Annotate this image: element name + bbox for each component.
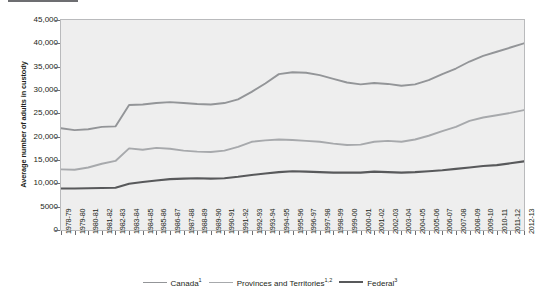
x-tick-label: 2011-12 [513,209,522,234]
y-tick-label: 40,000 [8,39,58,47]
x-tick-label: 1982-83 [118,209,127,234]
x-tick-label: 1981-82 [105,209,114,234]
x-tick-mark [510,231,511,235]
x-tick-label: 1980-81 [91,209,100,234]
x-tick-mark [361,231,362,235]
x-tick-mark [429,231,430,235]
legend-item[interactable]: Canada1 [143,277,202,288]
x-tick-mark [197,231,198,235]
x-tick-label: 1979-80 [78,209,87,234]
x-tick-label: 2004-05 [418,209,427,234]
x-tick-mark [306,231,307,235]
x-tick-mark [102,231,103,235]
x-tick-label: 1978-79 [64,209,73,234]
y-tick-label: 25,000 [8,109,58,117]
legend-label: Canada1 [171,277,202,288]
title-rule [8,0,78,2]
x-tick-label: 1996-97 [309,209,318,234]
chart-title-strip: Average number of adults in custody [0,0,540,7]
legend-item[interactable]: Provinces and Territories1,2 [209,277,333,288]
x-tick-label: 2009-10 [486,209,495,234]
legend-footnote-marker: 1,2 [325,277,333,283]
plot-area [60,19,525,231]
x-tick-mark [401,231,402,235]
y-tick-label: 5000 [8,203,58,211]
x-tick-label: 1987-88 [187,209,196,234]
x-tick-label: 2003-04 [404,209,413,234]
x-tick-mark [75,231,76,235]
x-tick-mark [143,231,144,235]
x-tick-mark [224,231,225,235]
y-tick-label: 35,000 [8,63,58,71]
x-tick-mark [388,231,389,235]
x-tick-mark [524,231,525,235]
x-tick-mark [88,231,89,235]
x-tick-label: 1990-91 [227,209,236,234]
line-series [61,110,524,170]
legend-item[interactable]: Federal3 [339,277,397,288]
y-tick-label: 45,000 [8,16,58,24]
x-tick-label: 1999-00 [350,209,359,234]
x-tick-mark [320,231,321,235]
x-tick-label: 2010-11 [500,209,509,234]
x-tick-mark [115,231,116,235]
legend-swatch [209,282,233,283]
y-axis-title: Average number of adults in custody [19,30,28,220]
y-tick-label: 20,000 [8,133,58,141]
legend-footnote-marker: 3 [394,277,397,283]
x-tick-mark [61,231,62,235]
x-tick-mark [415,231,416,235]
legend-swatch [143,282,167,283]
y-tick-label: 30,000 [8,86,58,94]
x-tick-label: 2008-09 [473,209,482,234]
x-tick-mark [456,231,457,235]
x-tick-mark [333,231,334,235]
legend-label: Federal3 [367,277,397,288]
x-tick-mark [156,231,157,235]
line-series-group [61,20,524,230]
y-tick-label: 0 [8,226,58,234]
x-tick-mark [470,231,471,235]
x-tick-label: 1995-96 [296,209,305,234]
x-tick-mark [252,231,253,235]
x-tick-label: 1997-98 [323,209,332,234]
x-tick-mark [170,231,171,235]
legend-label: Provinces and Territories1,2 [237,277,333,288]
x-tick-mark [211,231,212,235]
x-tick-mark [442,231,443,235]
x-tick-label: 1985-86 [159,209,168,234]
x-tick-mark [483,231,484,235]
x-tick-mark [293,231,294,235]
x-tick-label: 1993-94 [268,209,277,234]
x-tick-label: 1984-85 [146,209,155,234]
chart-legend: Canada1Provinces and Territories1,2Feder… [0,276,540,288]
legend-swatch [339,281,363,283]
x-tick-mark [265,231,266,235]
x-tick-mark [374,231,375,235]
x-tick-label: 1992-93 [255,209,264,234]
y-tick-label: 10,000 [8,179,58,187]
x-tick-label: 2006-07 [445,209,454,234]
x-tick-label: 2001-02 [377,209,386,234]
x-tick-label: 2000-01 [364,209,373,234]
x-tick-mark [279,231,280,235]
line-series [61,161,524,188]
legend-footnote-marker: 1 [199,277,202,283]
x-tick-label: 1991-92 [241,209,250,234]
x-tick-label: 2005-06 [432,209,441,234]
x-tick-label: 1998-99 [336,209,345,234]
x-tick-label: 2012-13 [527,209,536,234]
x-tick-label: 1989-90 [214,209,223,234]
line-series [61,43,524,130]
x-tick-mark [497,231,498,235]
x-tick-label: 1986-87 [173,209,182,234]
x-tick-mark [347,231,348,235]
x-tick-label: 2002-03 [391,209,400,234]
x-tick-label: 1988-89 [200,209,209,234]
x-tick-label: 2007-08 [459,209,468,234]
x-tick-label: 1983-84 [132,209,141,234]
x-tick-mark [129,231,130,235]
x-tick-mark [238,231,239,235]
y-tick-label: 15,000 [8,156,58,164]
x-tick-mark [184,231,185,235]
